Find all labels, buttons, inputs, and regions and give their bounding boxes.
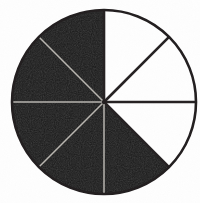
figure-root [0, 0, 200, 203]
fraction-circle-chart [0, 0, 200, 203]
center-hub-point [102, 100, 106, 104]
